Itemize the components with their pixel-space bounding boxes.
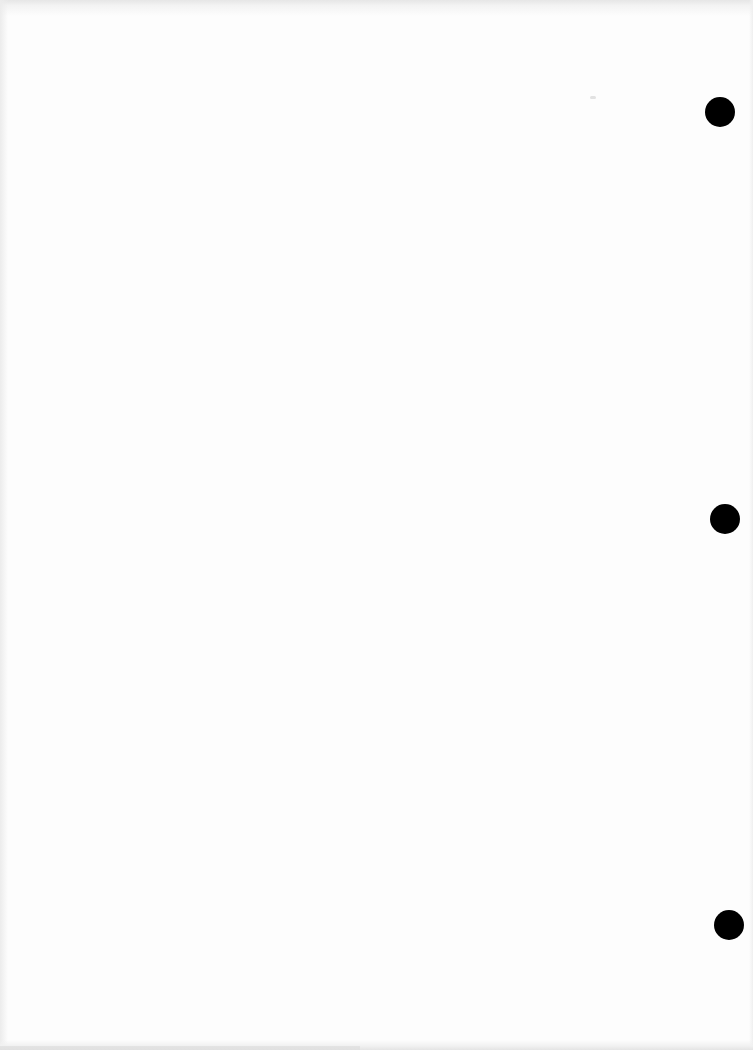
punch-hole-middle [710, 504, 740, 534]
scan-edge-right-shadow [749, 0, 753, 1050]
scan-edge-top-shadow [0, 0, 753, 16]
punch-hole-top [705, 97, 735, 127]
scan-edge-bottom-strip [0, 1046, 360, 1050]
punch-hole-bottom [714, 910, 744, 940]
blank-scanned-page [0, 0, 753, 1050]
scan-speck [590, 96, 596, 99]
scan-edge-left-shadow [0, 0, 8, 1050]
